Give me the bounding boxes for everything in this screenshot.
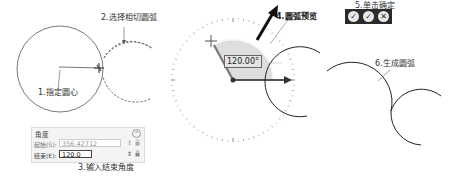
leader-step1 xyxy=(58,70,60,90)
end-angle-label: 结束(E): xyxy=(34,151,57,160)
start-angle-row: 起始(S): 356.42712 ⇕ xyxy=(34,139,141,148)
leader-step6 xyxy=(378,70,390,81)
spinner-icon[interactable]: ⇕ xyxy=(127,139,132,147)
preview-direction-arrow xyxy=(257,13,273,40)
tangent-arc-dashed xyxy=(103,42,152,102)
start-angle-input[interactable]: 356.42712 xyxy=(59,139,121,147)
tutorial-diagram: 2.选择相切圆弧 1.指定圆心 3.输入结束角度 4.圆弧预览 5.单击确定 6… xyxy=(0,0,451,183)
callout-step3: 3.输入结束角度 xyxy=(78,163,134,173)
start-angle-label: 起始(S): xyxy=(34,140,57,149)
lock-icon[interactable] xyxy=(135,150,140,157)
cancel-button[interactable]: ✕ xyxy=(378,11,389,22)
panel-title: 角度 xyxy=(35,129,49,139)
spinner-icon[interactable]: ⇕ xyxy=(127,150,132,158)
lock-icon[interactable] xyxy=(135,139,140,146)
apply-continue-button[interactable]: ✓ xyxy=(348,11,359,22)
angle-panel: 角度 ^ 起始(S): 356.42712 ⇕ 结束(E): 120.0 ⇕ xyxy=(31,127,145,163)
generated-arc xyxy=(327,62,392,111)
confirm-toolbar: ✓ ✓ ✕ xyxy=(345,9,392,24)
result-arc-right xyxy=(391,89,441,145)
check-icon: ✓ xyxy=(365,12,372,21)
reference-circle xyxy=(17,26,103,112)
callout-step1: 1.指定圆心 xyxy=(38,88,78,98)
angle-readout: 120.00° xyxy=(224,55,262,68)
end-angle-row: 结束(E): 120.0 ⇕ xyxy=(34,150,141,159)
check-plus-icon: ✓ xyxy=(350,12,357,21)
existing-arc-1 xyxy=(265,47,320,117)
ok-button[interactable]: ✓ xyxy=(363,11,374,22)
callout-step2: 2.选择相切圆弧 xyxy=(101,13,157,23)
callout-step6: 6.生成圆弧 xyxy=(375,59,415,69)
close-icon: ✕ xyxy=(380,12,387,21)
end-angle-input[interactable]: 120.0 xyxy=(59,150,92,158)
chevron-up-icon[interactable]: ^ xyxy=(132,129,141,138)
callout-step4: 4.圆弧预览 xyxy=(276,12,317,22)
